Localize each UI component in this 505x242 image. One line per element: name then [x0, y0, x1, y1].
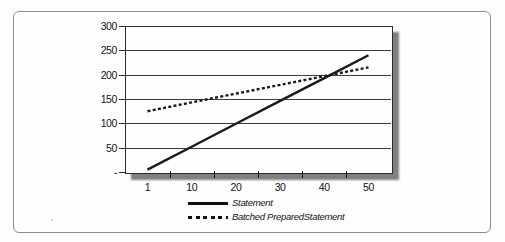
- x-axis-label: 10: [177, 182, 207, 193]
- legend-label-statement: Statement: [232, 197, 273, 209]
- scan-speck: [51, 219, 53, 221]
- figure-canvas: -5010015020025030011020304050 Statement …: [0, 0, 505, 242]
- y-axis-label: 300: [85, 21, 117, 32]
- x-axis-label: 50: [354, 182, 384, 193]
- x-axis-tick: [170, 171, 171, 178]
- y-axis-label: 150: [85, 94, 117, 105]
- series-plot: [125, 26, 391, 172]
- statement-line: [148, 55, 369, 169]
- batched-preparedstatement-line: [148, 67, 369, 111]
- x-axis-label: 1: [133, 182, 163, 193]
- x-axis-tick: [258, 171, 259, 178]
- dotted-line-swatch-icon: [188, 216, 228, 219]
- y-axis-label: 200: [85, 70, 117, 81]
- y-axis-label: 50: [85, 143, 117, 154]
- solid-line-swatch-icon: [188, 202, 228, 205]
- y-axis-tick: [119, 172, 125, 173]
- y-axis-label: -: [85, 167, 117, 178]
- x-axis-tick: [346, 171, 347, 178]
- x-axis-tick: [302, 171, 303, 178]
- legend-label-batched-preparedstatement: Batched PreparedStatement: [232, 211, 344, 223]
- y-axis-label: 100: [85, 118, 117, 129]
- x-axis-label: 30: [265, 182, 295, 193]
- y-axis-label: 250: [85, 45, 117, 56]
- x-axis-label: 20: [221, 182, 251, 193]
- x-axis-tick: [214, 171, 215, 178]
- x-axis-label: 40: [309, 182, 339, 193]
